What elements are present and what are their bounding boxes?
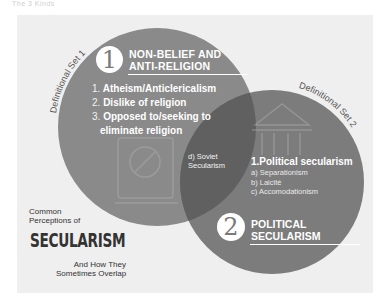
list-item: 1. Atheism/Anticlericalism — [92, 82, 216, 96]
caption-intro: Common Perceptions of — [29, 207, 80, 225]
caption-title: SECULARISM — [30, 229, 125, 251]
set2-title: POLITICAL SECULARISM — [251, 218, 320, 242]
set1-number-badge: 1 — [96, 46, 123, 73]
list-item: a) Separationism — [251, 168, 353, 178]
list-item: 3. Opposed to/seeking to — [92, 110, 216, 124]
set2-number-badge: 2 — [217, 213, 245, 241]
set1-list: 1. Atheism/Anticlericalism 2. Dislike of… — [92, 82, 216, 138]
set1-title-underline — [128, 74, 248, 75]
list-item: 2. Dislike of religion — [92, 96, 216, 110]
set2-list: 1.Political secularism a) Separationism … — [251, 156, 353, 197]
overlap-label: d) Soviet Secularism — [188, 153, 225, 170]
list-item: eliminate religion — [92, 124, 216, 138]
set2-heading: 1.Political secularism — [251, 156, 353, 168]
list-item: b) Laicité — [251, 178, 353, 188]
set1-title: NON-BELIEF AND ANTI-RELIGION — [129, 48, 221, 72]
caption-subtitle: And How They Sometimes Overlap — [56, 260, 126, 278]
list-item: c) Accomodationism — [251, 187, 353, 197]
set2-title-underline — [250, 244, 360, 245]
